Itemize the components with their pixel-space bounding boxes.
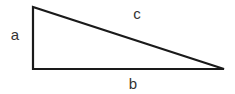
- side-b-label: b: [129, 76, 137, 91]
- side-a-label: a: [11, 27, 19, 42]
- right-triangle-figure: [0, 0, 235, 94]
- side-c-label: c: [133, 6, 141, 21]
- right-triangle-shape: [33, 7, 224, 69]
- triangle-diagram: a b c: [0, 0, 235, 94]
